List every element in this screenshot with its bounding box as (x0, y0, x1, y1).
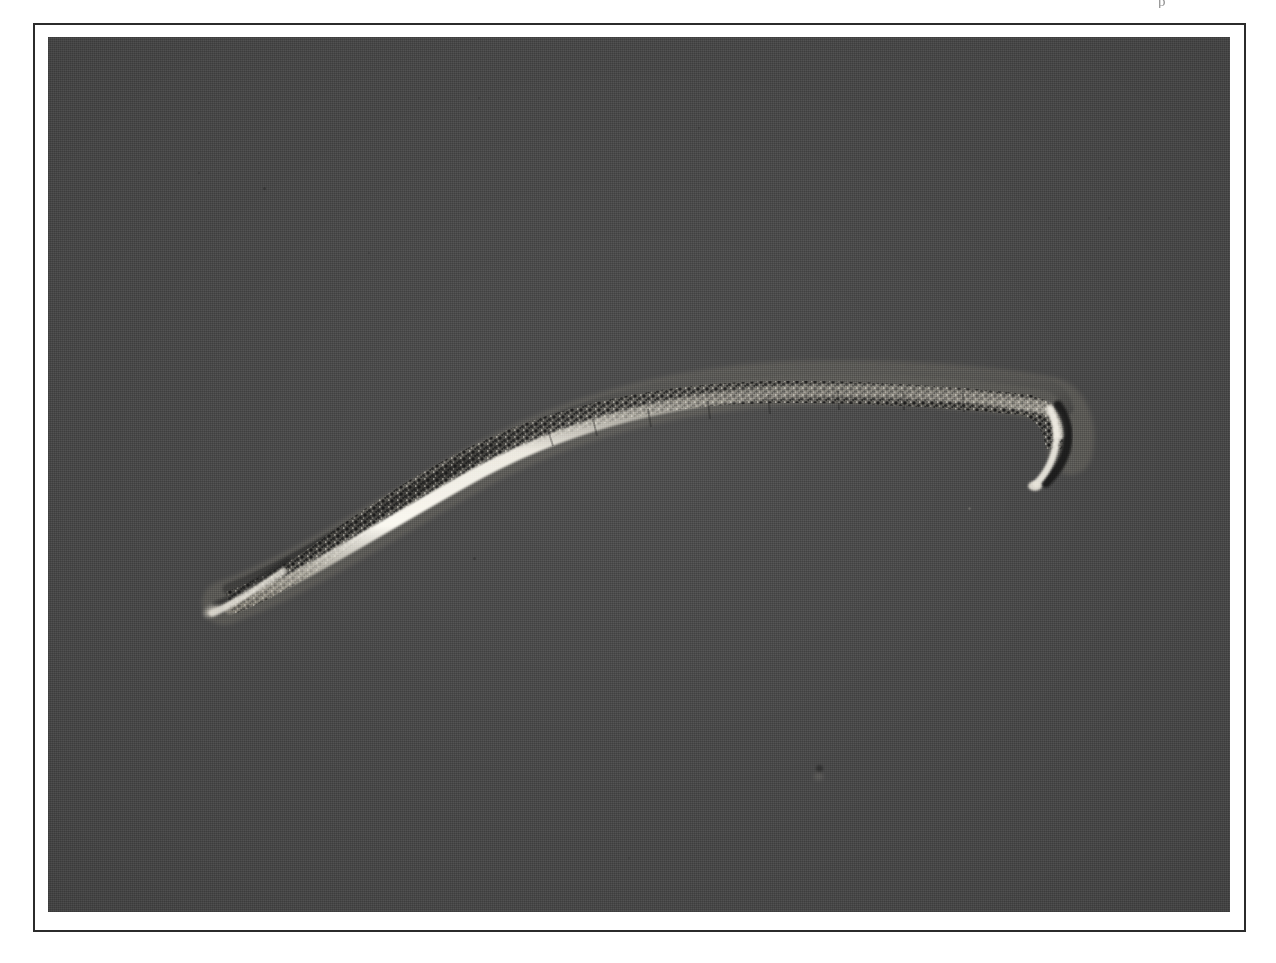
plate-mat (35, 25, 1244, 930)
nematode-micrograph (48, 37, 1230, 912)
scan-artifact-glyph: p (1158, 0, 1174, 8)
plate-frame (33, 23, 1246, 932)
specimen-illustration (48, 37, 1230, 912)
specimen-posterior-terminus (1028, 481, 1042, 491)
